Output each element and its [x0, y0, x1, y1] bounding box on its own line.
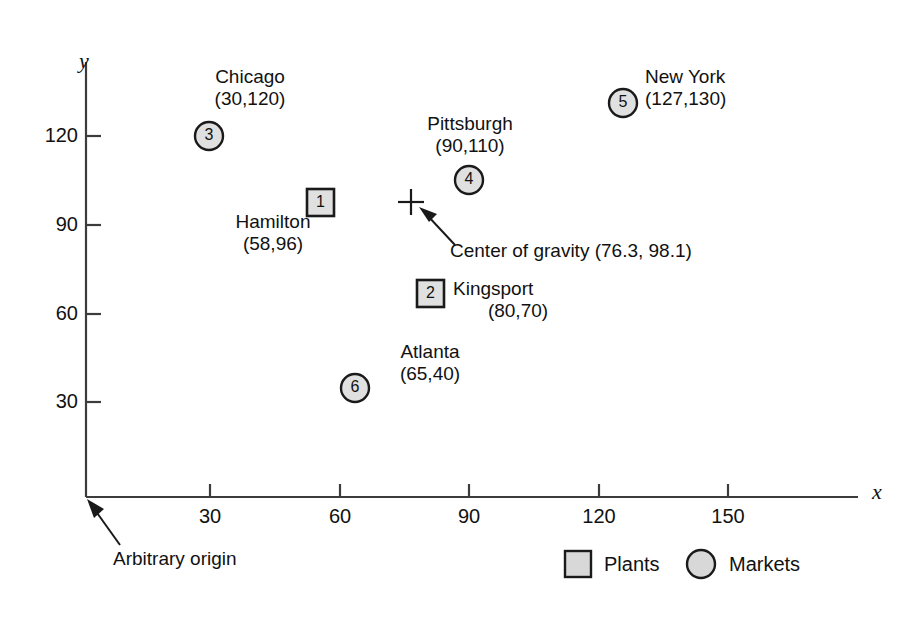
point-label-chicago: Chicago (30,120): [170, 66, 330, 111]
x-tick-label-150: 150: [698, 505, 758, 528]
y-tick-label-120: 120: [20, 124, 78, 147]
point-label-newyork: New York (127,130): [645, 66, 726, 111]
x-axis-label: x: [872, 479, 882, 505]
legend-markets-circle-icon: [687, 550, 715, 578]
y-tick-label-30: 30: [20, 390, 78, 413]
point-label-kingsport-coord: (80,70): [453, 300, 583, 322]
y-tick-label-60: 60: [20, 302, 78, 325]
point-label-chicago-coord: (30,120): [170, 88, 330, 110]
point-label-newyork-coord: (127,130): [645, 88, 726, 110]
figure-container: y x 120 90 60 30 30 60 90 120 150 3 4 5 …: [0, 0, 920, 620]
x-tick-label-60: 60: [310, 505, 370, 528]
point-label-atlanta-coord: (65,40): [365, 363, 495, 385]
point-label-pittsburgh: Pittsburgh (90,110): [395, 113, 545, 158]
point-label-chicago-name: Chicago: [170, 66, 330, 88]
x-tick-label-90: 90: [439, 505, 499, 528]
point-label-pittsburgh-coord: (90,110): [395, 135, 545, 157]
point-label-atlanta-name: Atlanta: [365, 341, 495, 363]
y-axis-label: y: [79, 48, 89, 74]
legend-markets-label: Markets: [729, 553, 800, 576]
arbitrary-origin-annotation: Arbitrary origin: [113, 548, 237, 570]
point-label-hamilton-coord: (58,96): [203, 233, 343, 255]
y-tick-label-90: 90: [20, 213, 78, 236]
point-label-pittsburgh-name: Pittsburgh: [395, 113, 545, 135]
point-label-atlanta: Atlanta (65,40): [365, 341, 495, 386]
legend-plants-square-icon: [565, 551, 591, 577]
center-of-gravity-plus-icon[interactable]: [398, 189, 424, 215]
marker-circle-5-newyork[interactable]: [609, 89, 637, 117]
marker-circle-4-pittsburgh[interactable]: [455, 166, 483, 194]
center-of-gravity-annotation: Center of gravity (76.3, 98.1): [450, 240, 692, 262]
point-label-kingsport: Kingsport (80,70): [453, 278, 583, 323]
x-tick-label-30: 30: [180, 505, 240, 528]
marker-square-2-kingsport[interactable]: [417, 280, 444, 307]
point-label-hamilton-name: Hamilton: [203, 211, 343, 233]
point-label-kingsport-name: Kingsport: [453, 278, 583, 300]
arbitrary-origin-arrow-icon: [87, 499, 120, 545]
point-label-hamilton: Hamilton (58,96): [203, 211, 343, 256]
point-label-newyork-name: New York: [645, 66, 726, 88]
legend-plants-label: Plants: [604, 553, 660, 576]
marker-circle-3-chicago[interactable]: [195, 122, 223, 150]
x-tick-label-120: 120: [569, 505, 629, 528]
